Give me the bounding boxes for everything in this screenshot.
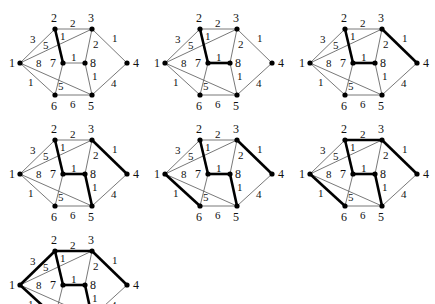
edge-weight-1-6: 1	[28, 76, 34, 88]
vertex-5	[89, 92, 94, 97]
graph-panel-2: 358121211516412345678	[154, 11, 284, 113]
edge-weight-1-5: 8	[326, 57, 332, 69]
edge-weight-7-6: 5	[203, 191, 209, 203]
vertex-2	[52, 137, 57, 142]
edge-weight-7-6: 5	[203, 80, 209, 92]
vertex-label-3: 3	[233, 11, 239, 25]
vertex-8	[82, 171, 87, 176]
vertex-3	[89, 26, 94, 31]
vertex-8	[227, 60, 232, 65]
edge-weight-2-3: 2	[70, 239, 76, 251]
vertex-label-6: 6	[341, 99, 347, 113]
edge-weight-3-8: 2	[383, 38, 389, 50]
edge-weight-1-3: 5	[188, 150, 194, 162]
vertex-4	[414, 60, 419, 65]
vertex-7	[350, 171, 355, 176]
edge-weight-8-5: 1	[92, 70, 98, 82]
edge-weight-7-6: 5	[348, 191, 354, 203]
vertex-7	[60, 60, 65, 65]
edge-weight-3-8: 2	[93, 260, 99, 272]
graph-panel-7: 358121211516412345678	[9, 233, 139, 304]
vertex-label-6: 6	[341, 210, 347, 224]
vertex-8	[82, 282, 87, 287]
vertex-6	[197, 92, 202, 97]
vertex-label-8: 8	[90, 56, 96, 70]
vertex-label-3: 3	[378, 11, 384, 25]
vertex-7	[205, 60, 210, 65]
vertex-label-8: 8	[90, 167, 96, 181]
vertex-1	[307, 171, 312, 176]
edge-weight-8-5: 1	[237, 181, 243, 193]
vertex-5	[234, 203, 239, 208]
edge-weight-7-8: 1	[361, 162, 367, 174]
vertex-5	[379, 92, 384, 97]
edge-weight-5-4: 4	[401, 77, 407, 89]
vertex-label-5: 5	[88, 210, 94, 224]
edge-weight-7-8: 1	[216, 51, 222, 63]
edge-weight-3-4: 1	[402, 32, 408, 44]
vertex-label-7: 7	[50, 167, 56, 181]
edge-weight-7-8: 1	[71, 51, 77, 63]
edge-weight-3-8: 2	[238, 149, 244, 161]
vertex-label-1: 1	[299, 167, 305, 181]
vertex-label-1: 1	[154, 167, 160, 181]
edge-weight-2-3: 2	[360, 17, 366, 29]
edge-weight-1-5: 8	[326, 168, 332, 180]
edge-weight-2-7: 1	[60, 30, 66, 42]
edge-weight-3-4: 1	[112, 32, 118, 44]
vertex-label-4: 4	[278, 56, 284, 70]
vertex-label-3: 3	[378, 122, 384, 136]
vertex-6	[342, 92, 347, 97]
edge-weight-2-3: 2	[360, 128, 366, 140]
edge-weight-2-7: 1	[60, 252, 66, 264]
edge-weight-3-4: 1	[112, 254, 118, 266]
edge-weight-5-4: 4	[111, 299, 117, 304]
edge-weight-3-4: 1	[402, 143, 408, 155]
edge-weight-5-4: 4	[111, 188, 117, 200]
edge-weight-7-8: 1	[361, 51, 367, 63]
vertex-label-5: 5	[233, 99, 239, 113]
vertex-label-1: 1	[9, 167, 15, 181]
edge-weight-1-2: 3	[30, 255, 36, 267]
vertex-label-6: 6	[51, 210, 57, 224]
mst-panels-figure: 3581212115164123456783581212115164123456…	[0, 0, 435, 304]
edge-weight-2-7: 1	[205, 141, 211, 153]
vertex-4	[124, 282, 129, 287]
edge-weight-5-4: 4	[111, 77, 117, 89]
vertex-label-3: 3	[233, 122, 239, 136]
vertex-7	[350, 60, 355, 65]
vertex-label-8: 8	[90, 278, 96, 292]
vertex-4	[124, 171, 129, 176]
edge-weight-5-4: 4	[256, 77, 262, 89]
edge-weight-8-5: 1	[237, 70, 243, 82]
vertex-label-7: 7	[340, 56, 346, 70]
vertex-label-2: 2	[196, 11, 202, 25]
vertex-label-2: 2	[51, 233, 57, 247]
vertex-label-1: 1	[299, 56, 305, 70]
edge-weight-8-5: 1	[382, 181, 388, 193]
edge-weight-1-3: 5	[333, 39, 339, 51]
vertex-label-1: 1	[9, 278, 15, 292]
vertex-8	[227, 171, 232, 176]
vertex-label-4: 4	[423, 56, 429, 70]
edge-weight-3-4: 1	[112, 143, 118, 155]
edge-weight-1-2: 3	[320, 144, 326, 156]
edge-weight-3-4: 1	[257, 32, 263, 44]
edge-weight-1-5: 8	[181, 168, 187, 180]
vertex-1	[162, 171, 167, 176]
vertex-2	[52, 26, 57, 31]
vertex-6	[52, 203, 57, 208]
edge-weight-2-3: 2	[215, 128, 221, 140]
vertex-4	[269, 60, 274, 65]
edge-weight-2-3: 2	[70, 17, 76, 29]
edge-weight-3-8: 2	[238, 38, 244, 50]
vertex-label-5: 5	[378, 99, 384, 113]
vertex-label-1: 1	[154, 56, 160, 70]
edge-weight-1-6: 1	[173, 187, 179, 199]
vertex-4	[414, 171, 419, 176]
graph-panel-5: 358121211516412345678	[154, 122, 284, 224]
edge-weight-8-5: 1	[92, 181, 98, 193]
vertex-label-7: 7	[340, 167, 346, 181]
vertex-label-5: 5	[88, 99, 94, 113]
vertex-label-6: 6	[196, 99, 202, 113]
